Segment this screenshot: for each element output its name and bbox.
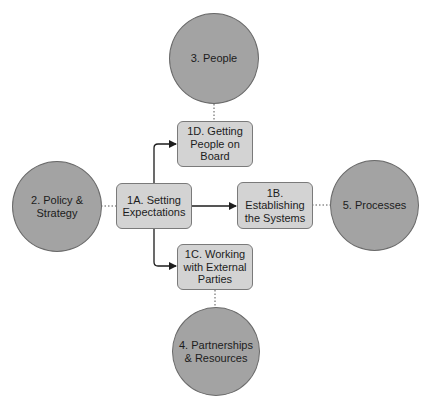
circle-policy-strategy: 2. Policy & Strategy	[12, 161, 102, 252]
circle-people: 3. People	[169, 13, 259, 104]
box-1d-getting-people-on-board: 1D. Getting People on Board	[177, 121, 253, 167]
arrow-1a-to-1c	[154, 229, 176, 266]
box-1a-label: 1A. Setting Expectations	[123, 194, 186, 219]
box-1a-setting-expectations: 1A. Setting Expectations	[116, 183, 192, 229]
circle-partnerships-resources: 4. Partnerships & Resources	[172, 307, 260, 396]
box-1c-working-external-parties: 1C. Working with External Parties	[177, 244, 253, 290]
circle-partnerships-label: 4. Partnerships & Resources	[179, 339, 253, 365]
box-1d-label: 1D. Getting People on Board	[187, 125, 243, 163]
box-1b-label: 1B. Establishing the Systems	[245, 187, 306, 225]
circle-processes: 5. Processes	[330, 160, 419, 251]
arrow-1a-to-1d	[154, 144, 176, 183]
circle-policy-label: 2. Policy & Strategy	[31, 194, 83, 220]
circle-people-label: 3. People	[191, 52, 237, 65]
circle-processes-label: 5. Processes	[343, 199, 407, 212]
box-1c-label: 1C. Working with External Parties	[184, 248, 247, 286]
box-1b-establishing-systems: 1B. Establishing the Systems	[237, 182, 313, 229]
